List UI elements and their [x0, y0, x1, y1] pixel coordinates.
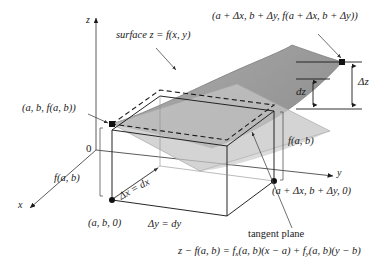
f-ab-left-brace [100, 128, 103, 196]
z-axis-label: z [86, 15, 90, 25]
delta-z-label: Δz [358, 76, 369, 87]
equation-lhs: z − f(a, b) = f [178, 245, 235, 256]
diagram-canvas [0, 0, 390, 269]
delta-y-label: Δy = dy [148, 219, 181, 230]
equation-mid: (a, b)(x − a) + f [238, 245, 305, 256]
dz-label: dz [296, 86, 306, 97]
f-ab-left-label: f(a, b) [54, 173, 80, 184]
equation-end: (a, b)(y − b) [309, 245, 361, 256]
f-ab-right-label: f(a, b) [288, 136, 314, 147]
y-axis-label: y [337, 168, 341, 178]
surface-label: surface z = f(x, y) [116, 30, 190, 41]
point-marker-base [109, 121, 115, 127]
origin-label: 0 [86, 143, 92, 154]
leader-surface [156, 48, 176, 70]
tangent-plane-differential-diagram: z y x 0 surface z = f(x, y) (a + Δx, b +… [0, 0, 390, 269]
leader-base-point [88, 114, 108, 123]
tangent-plane-label: tangent plane [248, 229, 304, 240]
base-point-label: (a, b, f(a, b)) [22, 103, 76, 114]
far-floor-point-label: (a + Δx, b + Δy, 0) [272, 186, 351, 197]
top-point-label: (a + Δx, b + Δy, f(a + Δx, b + Δy)) [212, 11, 358, 22]
leader-top-point [318, 34, 341, 58]
x-axis-label: x [18, 200, 22, 210]
base-floor-point-label: (a, b, 0) [88, 218, 121, 229]
tangent-plane-equation: z − f(a, b) = fx(a, b)(x − a) + fy(a, b)… [178, 246, 361, 258]
